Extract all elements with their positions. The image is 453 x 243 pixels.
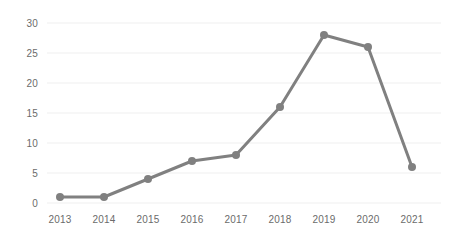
y-axis-tick-label: 5 <box>14 168 38 179</box>
data-point-marker <box>144 175 152 183</box>
data-point-marker <box>100 193 108 201</box>
data-point-markers-group <box>56 31 416 201</box>
x-axis-tick-label: 2020 <box>346 214 390 225</box>
y-axis-tick-label: 30 <box>14 18 38 29</box>
y-axis-tick-label: 10 <box>14 138 38 149</box>
x-axis-tick-label: 2017 <box>214 214 258 225</box>
y-axis-tick-label: 20 <box>14 78 38 89</box>
gridlines-group <box>47 23 441 203</box>
data-point-marker <box>188 157 196 165</box>
data-point-marker <box>56 193 64 201</box>
y-axis-tick-label: 0 <box>14 198 38 209</box>
x-axis-tick-label: 2021 <box>390 214 434 225</box>
data-point-marker <box>320 31 328 39</box>
chart-plot-area <box>0 0 453 243</box>
x-axis-tick-label: 2016 <box>170 214 214 225</box>
x-axis-tick-label: 2013 <box>38 214 82 225</box>
data-point-marker <box>232 151 240 159</box>
data-point-marker <box>408 163 416 171</box>
data-point-marker <box>276 103 284 111</box>
x-axis-tick-label: 2014 <box>82 214 126 225</box>
line-chart: 051015202530 201320142015201620172018201… <box>0 0 453 243</box>
y-axis-tick-label: 15 <box>14 108 38 119</box>
y-axis-tick-label: 25 <box>14 48 38 59</box>
x-axis-tick-label: 2015 <box>126 214 170 225</box>
x-axis-tick-label: 2019 <box>302 214 346 225</box>
data-point-marker <box>364 43 372 51</box>
x-axis-tick-label: 2018 <box>258 214 302 225</box>
